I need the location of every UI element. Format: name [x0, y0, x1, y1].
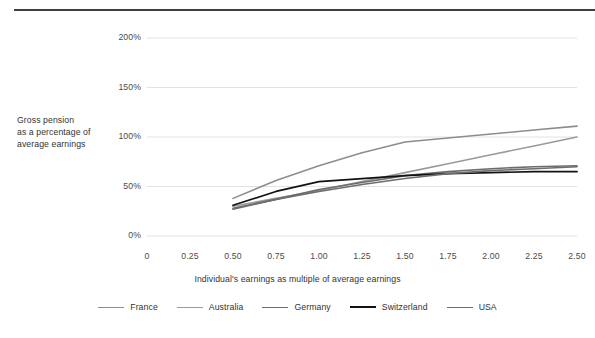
- x-tick-label: 2.25: [514, 251, 554, 261]
- plot-area: 0%50%100%150%200% 00.250.500.751.001.251…: [0, 0, 595, 338]
- y-tick-label: 0%: [101, 230, 141, 240]
- legend-label: Germany: [294, 302, 330, 312]
- legend-label: Switzerland: [382, 302, 428, 312]
- legend-line-swatch: [98, 307, 124, 308]
- legend-item-switzerland[interactable]: Switzerland: [350, 302, 428, 312]
- x-tick-label: 1.75: [428, 251, 468, 261]
- x-tick-label: 1.00: [299, 251, 339, 261]
- x-tick-label: 1.50: [385, 251, 425, 261]
- chart-legend: FranceAustraliaGermanySwitzerlandUSA: [0, 302, 595, 312]
- legend-label: France: [130, 302, 158, 312]
- x-tick-label: 2.00: [471, 251, 511, 261]
- gridlines: [147, 38, 577, 236]
- x-tick-label: 0: [127, 251, 167, 261]
- x-tick-label: 1.25: [342, 251, 382, 261]
- legend-item-australia[interactable]: Australia: [177, 302, 244, 312]
- legend-line-swatch: [177, 307, 203, 308]
- line-chart-svg: [0, 0, 595, 338]
- data-lines: [233, 126, 577, 209]
- x-axis-title: Individual's earnings as multiple of ave…: [0, 274, 595, 284]
- legend-line-swatch: [262, 307, 288, 308]
- legend-item-france[interactable]: France: [98, 302, 158, 312]
- legend-item-germany[interactable]: Germany: [262, 302, 330, 312]
- y-tick-label: 100%: [101, 131, 141, 141]
- y-tick-label: 150%: [101, 82, 141, 92]
- x-tick-label: 2.50: [557, 251, 595, 261]
- legend-label: Australia: [209, 302, 244, 312]
- legend-line-swatch: [447, 307, 473, 308]
- legend-line-swatch: [350, 306, 376, 308]
- x-tick-label: 0.25: [170, 251, 210, 261]
- y-tick-label: 50%: [101, 181, 141, 191]
- legend-label: USA: [479, 302, 497, 312]
- series-line-switzerland: [233, 172, 577, 206]
- legend-item-usa[interactable]: USA: [447, 302, 497, 312]
- x-tick-label: 0.75: [256, 251, 296, 261]
- chart-page: Gross pension as a percentage of average…: [0, 0, 595, 338]
- y-tick-label: 200%: [101, 32, 141, 42]
- x-tick-label: 0.50: [213, 251, 253, 261]
